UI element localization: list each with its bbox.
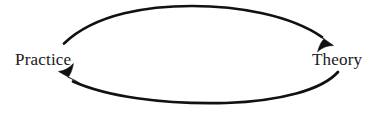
arrow-theory-to-practice-path [73,72,338,103]
node-label-practice: Practice [15,51,71,68]
node-label-theory: Theory [312,51,362,68]
cycle-diagram: Practice Theory [0,0,383,115]
arrow-practice-to-theory-path [64,6,322,44]
